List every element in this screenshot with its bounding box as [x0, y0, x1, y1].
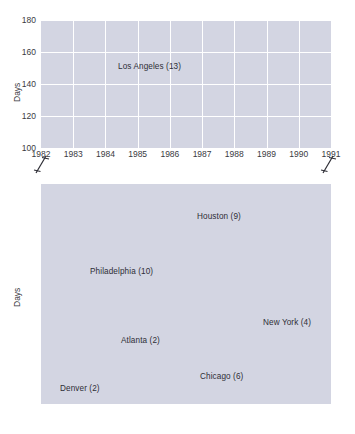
- y-tick-label: 140: [11, 80, 36, 89]
- x-tick-label: 1987: [187, 150, 217, 159]
- bottom-chart-panel: Days Houston (9) Philadelphia (10) New Y…: [0, 172, 355, 434]
- annotation-los-angeles: Los Angeles (13): [118, 62, 181, 71]
- x-tick-label: 1990: [284, 150, 314, 159]
- top-series-lines: [0, 0, 355, 172]
- x-tick-label: 1985: [123, 150, 153, 159]
- x-tick-label: 1989: [252, 150, 282, 159]
- y-tick-label: 180: [11, 16, 36, 25]
- y-tick-label: 160: [11, 48, 36, 57]
- annotation-denver: Denver (2): [60, 384, 100, 393]
- x-tick-label: 1984: [90, 150, 120, 159]
- y-tick-label: 120: [11, 112, 36, 121]
- x-tick-label: 1983: [58, 150, 88, 159]
- bottom-y-axis-title: Days: [12, 288, 22, 307]
- annotation-new-york: New York (4): [263, 318, 311, 327]
- x-tick-label: 1986: [155, 150, 185, 159]
- annotation-chicago: Chicago (6): [200, 372, 243, 381]
- annotation-philadelphia: Philadelphia (10): [90, 267, 153, 276]
- top-chart-panel: Days 100120140160180 1982198319841985198…: [0, 0, 355, 172]
- figure-root: Days 100120140160180 1982198319841985198…: [0, 0, 355, 434]
- annotation-houston: Houston (9): [197, 212, 241, 221]
- bottom-series-lines: [0, 172, 355, 434]
- annotation-atlanta: Atlanta (2): [121, 336, 160, 345]
- x-tick-label: 1988: [219, 150, 249, 159]
